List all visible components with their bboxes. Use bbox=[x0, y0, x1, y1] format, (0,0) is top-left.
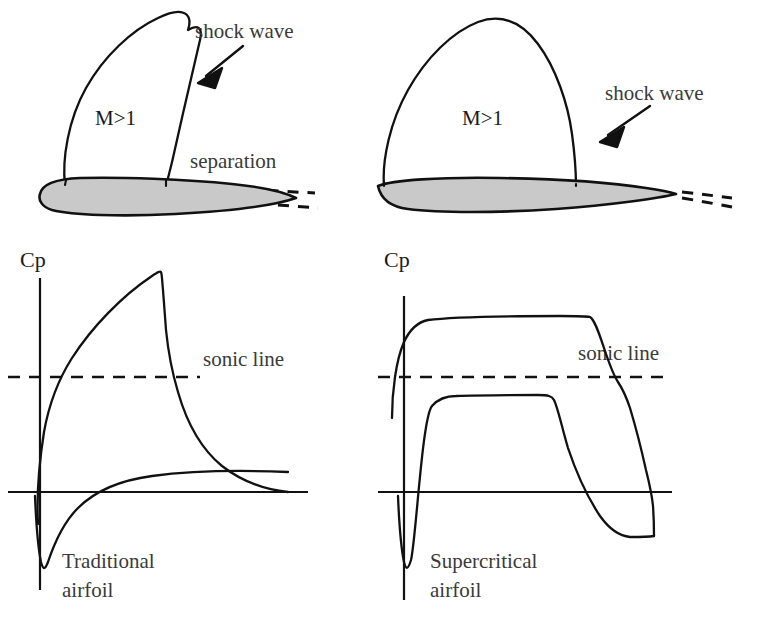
airfoil-supercritical bbox=[378, 178, 676, 212]
chart-cp-supercritical: Cp sonic line Supercritical airfoil bbox=[378, 247, 672, 602]
separation-label: separation bbox=[190, 149, 277, 173]
cp-axis-label-right: Cp bbox=[384, 247, 410, 272]
caption-supercritical-line2: airfoil bbox=[430, 578, 481, 602]
wake-dashed-upper bbox=[682, 192, 732, 198]
cp-curve-upper-left bbox=[38, 272, 288, 524]
shock-wave-arrow-right bbox=[600, 106, 650, 147]
separation-dashed-lower bbox=[278, 205, 318, 208]
supersonic-bubble-right bbox=[384, 19, 576, 186]
supersonic-bubble-left bbox=[64, 12, 201, 186]
sonic-line-label-right: sonic line bbox=[578, 341, 659, 365]
panel-top-left: shock wave M>1 separation bbox=[40, 12, 319, 216]
mach-label-right: M>1 bbox=[462, 106, 503, 130]
cp-curve-lower-right bbox=[398, 395, 654, 568]
shock-wave-label-left: shock wave bbox=[195, 19, 294, 43]
cp-axis-label-left: Cp bbox=[20, 247, 46, 272]
shock-wave-arrow-left bbox=[198, 46, 243, 88]
airfoil-traditional bbox=[40, 178, 297, 216]
caption-traditional-line1: Traditional bbox=[62, 549, 155, 573]
caption-traditional-line2: airfoil bbox=[62, 578, 113, 602]
chart-cp-traditional: Cp sonic line Traditional airfoil bbox=[8, 247, 308, 602]
caption-supercritical-line1: Supercritical bbox=[430, 549, 537, 573]
figure-canvas: shock wave M>1 separation shock wave M>1 bbox=[0, 0, 764, 631]
mach-label-left: M>1 bbox=[95, 106, 136, 130]
sonic-line-label-left: sonic line bbox=[203, 347, 284, 371]
panel-top-right: shock wave M>1 bbox=[378, 19, 732, 212]
wake-dashed-lower bbox=[682, 198, 732, 207]
bubble-foot-left-1 bbox=[65, 180, 66, 185]
diagram-svg: shock wave M>1 separation shock wave M>1 bbox=[0, 0, 764, 631]
shock-wave-label-right: shock wave bbox=[605, 81, 704, 105]
